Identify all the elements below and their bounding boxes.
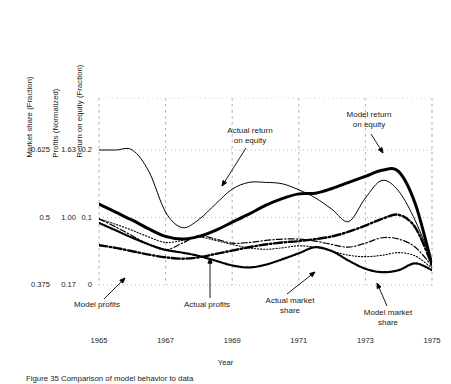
- y-tick-market-share-0: 0.625: [20, 146, 50, 154]
- series-model-return-on-equity: [99, 168, 432, 264]
- x-tick-1975: 1975: [415, 337, 449, 345]
- y-tick-roe-1: 0.1: [76, 214, 92, 222]
- y-tick-profits-0: 1.63: [52, 146, 76, 154]
- series-model-profits: [99, 214, 432, 264]
- annotation-model-return-on-equity: Model return on equity: [330, 110, 408, 129]
- annotation-actual-profits: Actual profits: [172, 300, 242, 310]
- x-tick-1967: 1967: [149, 337, 183, 345]
- leader-model-market-share: [377, 283, 387, 306]
- leader-actual-market-share: [287, 272, 315, 294]
- y-tick-profits-1: 1.00: [52, 214, 76, 222]
- x-tick-1973: 1973: [348, 337, 382, 345]
- series-actual-profits: [99, 219, 432, 266]
- x-tick-1971: 1971: [282, 337, 316, 345]
- x-tick-1965: 1965: [82, 337, 116, 345]
- figure-caption: Figure 35 Comparison of model behavior t…: [26, 374, 446, 384]
- annotation-actual-return-on-equity: Actual return on equity: [210, 126, 290, 145]
- y-tick-profits-2: 0.17: [52, 281, 76, 289]
- y-axis-title-return-on-equity: Return on equity (Fraction): [76, 65, 84, 158]
- x-tick-1969: 1969: [215, 337, 249, 345]
- leader-model-profits: [104, 278, 125, 299]
- annotation-model-profits: Model profits: [58, 300, 136, 310]
- annotation-model-market-share: Model market share: [350, 308, 426, 327]
- y-tick-market-share-2: 0.375: [20, 281, 50, 289]
- annotation-actual-market-share: Actual market share: [252, 296, 328, 315]
- y-tick-market-share-1: 0.5: [20, 214, 50, 222]
- leader-actual-profits: [208, 258, 212, 298]
- leader-actual-return-on-equity: [222, 148, 246, 186]
- x-axis-title: Year: [0, 358, 451, 367]
- annotation-leaders: [104, 134, 387, 306]
- y-tick-roe-2: 0: [76, 281, 92, 289]
- data-curves: [99, 148, 432, 272]
- leader-model-return-on-equity: [371, 134, 383, 153]
- y-tick-roe-0: 0.2: [76, 146, 92, 154]
